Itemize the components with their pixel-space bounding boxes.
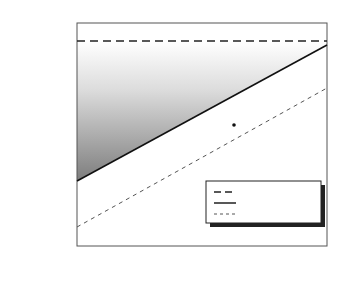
point-a-marker xyxy=(232,123,236,127)
chart xyxy=(0,0,339,300)
legend xyxy=(206,181,325,227)
